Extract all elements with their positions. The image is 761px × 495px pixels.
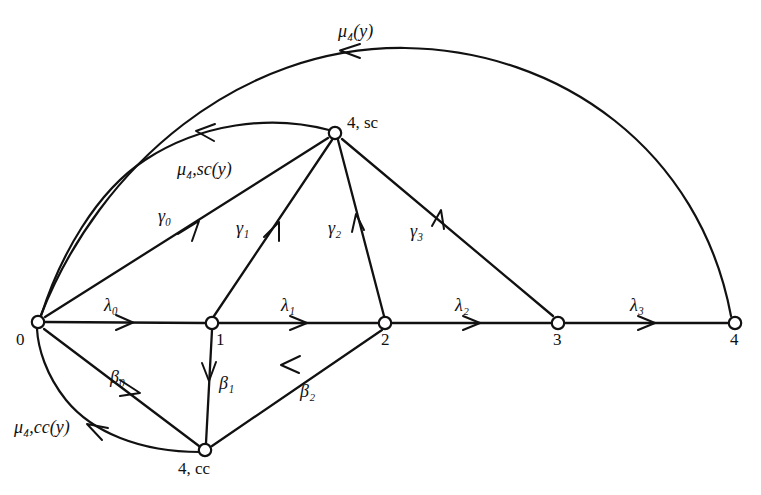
node-label-0: 0 xyxy=(16,331,25,348)
edge-label-mu4-sc: μ₄,sc(y) xyxy=(177,160,232,178)
edge-lambda-0 xyxy=(45,315,205,330)
state-transition-diagram: 0 1 2 3 4 4, sc 4, cc λ₀ λ₁ λ₂ λ₃ γ₀ γ₁ … xyxy=(0,0,761,495)
edge-label-gamma-0: γ₀ xyxy=(158,207,171,225)
edge-mu4sc xyxy=(41,123,329,316)
edge-label-beta-0: β₀ xyxy=(110,368,125,386)
edge-gamma-3 xyxy=(342,139,553,316)
node-label-4-cc: 4, cc xyxy=(178,460,210,477)
edge-label-gamma-3: γ₃ xyxy=(410,222,423,240)
edge-label-gamma-2: γ₂ xyxy=(328,219,341,237)
edge-label-lambda-2: λ₂ xyxy=(455,296,469,314)
node-2[interactable] xyxy=(379,317,391,329)
node-label-2: 2 xyxy=(381,331,390,348)
node-label-1: 1 xyxy=(216,331,225,348)
edge-beta-1 xyxy=(202,330,216,443)
node-label-4: 4 xyxy=(730,331,739,348)
node-0[interactable] xyxy=(32,316,44,328)
node-4[interactable] xyxy=(729,317,741,329)
edge-gamma-2 xyxy=(338,140,384,316)
edge-label-mu4-cc: μ₄,cc(y) xyxy=(14,418,70,436)
edge-lambda-2 xyxy=(392,316,551,330)
diagram-canvas xyxy=(0,0,761,495)
edge-beta-2 xyxy=(212,330,382,446)
edge-label-beta-1: β₁ xyxy=(219,374,234,392)
node-4-cc[interactable] xyxy=(199,444,211,456)
node-label-4-sc: 4, sc xyxy=(347,114,378,131)
edge-mu4 xyxy=(41,44,731,316)
edge-label-gamma-1: γ₁ xyxy=(236,219,249,237)
edge-label-lambda-3: λ₃ xyxy=(630,296,644,314)
edge-label-lambda-0: λ₀ xyxy=(104,296,118,314)
node-label-3: 3 xyxy=(553,331,562,348)
edge-lambda-1 xyxy=(219,316,378,330)
node-4-sc[interactable] xyxy=(329,127,341,139)
edge-label-lambda-1: λ₁ xyxy=(281,296,295,314)
edge-lambda-3 xyxy=(565,316,728,330)
edge-label-mu4: μ₄(y) xyxy=(338,22,373,40)
edge-label-beta-2: β₂ xyxy=(300,382,315,400)
node-1[interactable] xyxy=(206,317,218,329)
node-3[interactable] xyxy=(552,317,564,329)
